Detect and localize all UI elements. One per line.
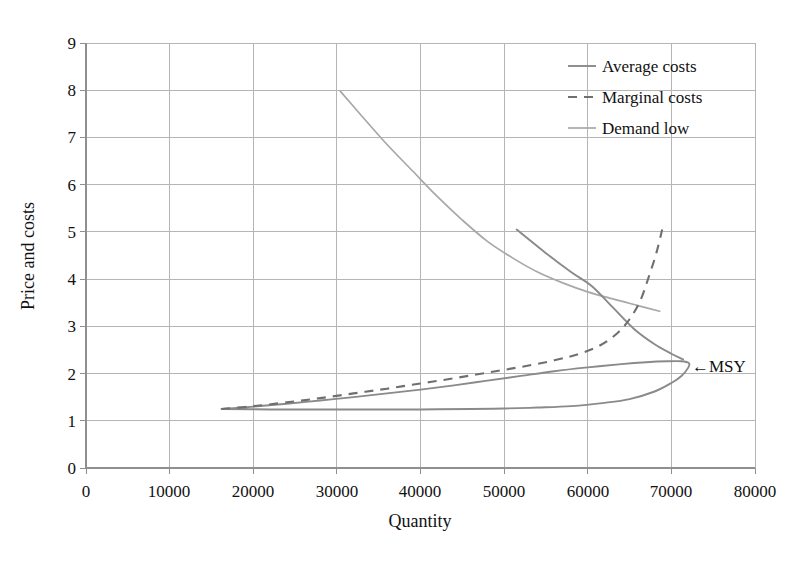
y-tick-label: 6 <box>68 176 77 195</box>
chart-svg: 9 8 7 6 5 4 3 2 1 0 0 10000 20000 30000 … <box>0 0 811 567</box>
series-line-marginal-costs <box>221 230 662 409</box>
x-tick-label: 40000 <box>399 482 442 501</box>
y-tick-label: 2 <box>68 365 77 384</box>
y-tick-label: 4 <box>68 270 77 289</box>
y-tick-label: 0 <box>68 459 77 478</box>
tick-labels-y: 9 8 7 6 5 4 3 2 1 0 <box>68 34 77 478</box>
msy-annotation: ←MSY <box>692 357 746 376</box>
legend-label-average-costs: Average costs <box>602 57 697 76</box>
y-tick-label: 3 <box>68 317 77 336</box>
y-tick-label: 7 <box>68 128 77 147</box>
chart-container: 9 8 7 6 5 4 3 2 1 0 0 10000 20000 30000 … <box>0 0 811 567</box>
legend-label-marginal-costs: Marginal costs <box>602 88 702 107</box>
x-tick-label: 50000 <box>483 482 526 501</box>
tick-labels-x: 0 10000 20000 30000 40000 50000 60000 70… <box>82 482 777 501</box>
msy-annotation-label: ←MSY <box>692 357 746 376</box>
y-axis-title: Price and costs <box>18 202 38 310</box>
series-group <box>221 91 689 409</box>
x-tick-label: 10000 <box>148 482 191 501</box>
x-tick-label: 70000 <box>650 482 693 501</box>
x-axis-title: Quantity <box>389 511 452 531</box>
y-tick-label: 9 <box>68 34 77 53</box>
x-tick-label: 80000 <box>734 482 777 501</box>
y-tick-label: 8 <box>68 81 77 100</box>
legend-label-demand-low: Demand low <box>602 119 690 138</box>
x-tick-label: 0 <box>82 482 91 501</box>
x-tick-label: 30000 <box>316 482 359 501</box>
y-tick-label: 1 <box>68 412 77 431</box>
x-tick-label: 20000 <box>232 482 275 501</box>
x-tick-label: 60000 <box>567 482 610 501</box>
y-tick-label: 5 <box>68 223 77 242</box>
